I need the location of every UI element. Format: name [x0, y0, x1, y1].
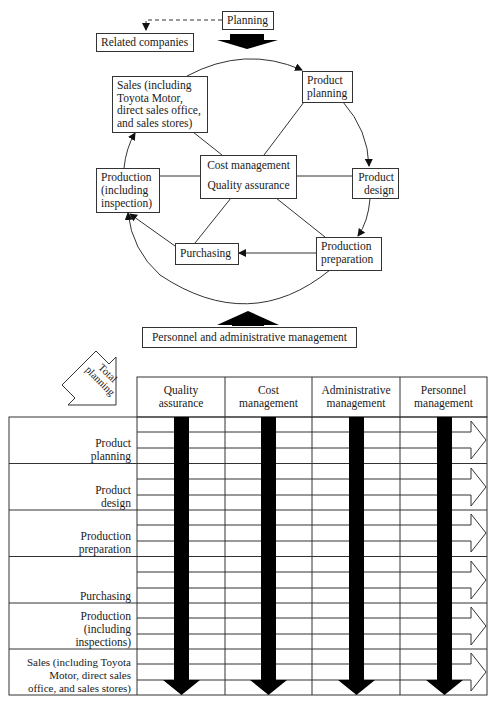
product-design-box: Product design	[352, 168, 399, 199]
arc-production-to-sales	[124, 133, 135, 168]
row-label-purchasing: Purchasing	[9, 557, 137, 603]
personnel-box: Personnel and administrative management	[142, 327, 357, 348]
row-label-line: planning	[91, 450, 131, 463]
row-label-line: preparation	[79, 543, 131, 556]
column-header-line: management	[327, 397, 386, 410]
related-companies-box: Related companies	[96, 33, 194, 52]
purchasing-label: Purchasing	[180, 247, 231, 259]
sales-line-3: direct sales office,	[117, 104, 203, 117]
row-label-line: Product	[95, 437, 131, 450]
planning-box: Planning	[222, 11, 274, 30]
production-line-2: (including	[101, 184, 155, 197]
product-planning-box: Product planning	[302, 71, 353, 103]
dashed-connector	[146, 20, 222, 30]
planning-label: Planning	[227, 14, 268, 26]
production-box: Production (including inspection)	[96, 168, 160, 213]
arc-sales-to-planning	[187, 59, 302, 76]
row-label-line: Product	[95, 484, 131, 497]
quality-assurance-label: Quality assurance	[205, 179, 292, 192]
row-label-line: Production	[81, 610, 131, 623]
row-label-line: (including	[84, 623, 131, 636]
column-header-line: Administrative	[322, 384, 391, 397]
arc-design-to-prep	[358, 199, 370, 236]
row-label-line: design	[101, 497, 131, 510]
production-line-1: Production	[101, 171, 155, 184]
planning-down-arrow	[217, 34, 278, 49]
column-header-line: Cost	[258, 384, 279, 397]
production-preparation-line-1: Production	[321, 240, 377, 253]
product-design-line-2: design	[357, 184, 394, 197]
line-center-purchasing	[195, 198, 231, 243]
column-header-line: assurance	[159, 397, 204, 410]
sales-box: Sales (including Toyota Motor, direct sa…	[112, 76, 208, 133]
production-preparation-box: Production preparation	[316, 237, 382, 271]
production-preparation-line-2: preparation	[321, 253, 377, 266]
row-label-product-planning: Product planning	[9, 417, 137, 463]
row-label-product-design: Product design	[9, 464, 137, 510]
column-header-personnel-management: Personnel management	[400, 377, 487, 417]
row-label-line: Motor, direct sales	[49, 669, 131, 682]
personnel-label: Personnel and administrative management	[152, 331, 347, 343]
row-label-sales: Sales (including Toyota Motor, direct sa…	[9, 649, 137, 695]
column-header-cost-management: Cost management	[225, 377, 312, 417]
row-label-line: Purchasing	[80, 590, 131, 603]
line-planning-center	[264, 102, 304, 155]
column-header-administrative-management: Administrative management	[312, 377, 400, 417]
product-planning-line-2: planning	[307, 87, 348, 100]
line-sales-center	[193, 132, 222, 155]
related-companies-label: Related companies	[101, 36, 188, 48]
purchasing-box: Purchasing	[175, 243, 239, 265]
row-label-line: office, and sales stores)	[28, 682, 131, 695]
cost-management-label: Cost management	[205, 159, 292, 172]
sales-line-4: and sales stores)	[117, 117, 203, 130]
center-management-box: Cost management Quality assurance	[200, 155, 297, 199]
arc-planning-to-design	[343, 102, 369, 166]
product-planning-line-1: Product	[307, 74, 348, 87]
row-label-line: Sales (including Toyota	[27, 656, 131, 669]
sales-line-1: Sales (including	[117, 79, 203, 92]
product-design-line-1: Product	[357, 171, 394, 184]
column-header-line: management	[239, 397, 298, 410]
sales-line-2: Toyota Motor,	[117, 92, 203, 105]
production-line-3: inspection)	[101, 197, 155, 210]
line-purchasing-production	[130, 214, 175, 246]
row-label-production: Production (including inspections)	[9, 603, 137, 649]
row-label-line: inspections)	[75, 636, 131, 649]
column-header-line: Quality	[164, 384, 199, 397]
column-header-line: management	[414, 397, 473, 410]
column-header-quality-assurance: Quality assurance	[137, 377, 225, 417]
row-label-production-preparation: Production preparation	[9, 510, 137, 556]
column-header-line: Personnel	[421, 384, 466, 397]
line-center-prep	[276, 198, 325, 237]
row-label-line: Production	[81, 530, 131, 543]
